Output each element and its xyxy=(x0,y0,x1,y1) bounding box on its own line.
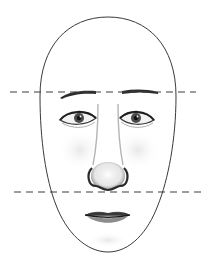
lips xyxy=(85,212,130,223)
eye-right xyxy=(120,112,154,128)
face-proportion-diagram xyxy=(0,0,212,268)
eyebrow-right xyxy=(122,90,158,94)
eye-left xyxy=(60,112,96,128)
chin-shading xyxy=(88,232,128,248)
eyebrow-left xyxy=(60,91,96,99)
face-illustration xyxy=(0,0,212,268)
